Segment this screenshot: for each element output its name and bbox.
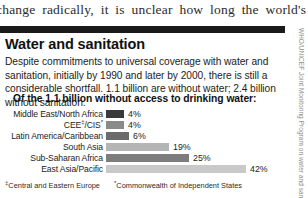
infographic-page: change radically, it is unclear how long… — [0, 0, 308, 198]
source-credit-margin: WHO/UNICEF Joint Monitoring Program on w… — [294, 0, 308, 198]
chart-row: East Asia/Pacific42% — [0, 164, 285, 175]
source-credit: WHO/UNICEF Joint Monitoring Program on w… — [297, 28, 305, 198]
chart-row-label: East Asia/Pacific — [0, 164, 103, 175]
running-body-text: change radically, it is unclear how long… — [0, 2, 286, 18]
chart-value-label: 42% — [250, 164, 268, 175]
box-title: Water and sanitation — [5, 36, 145, 52]
chart-bar — [106, 165, 246, 173]
chart-value-label: 25% — [193, 153, 211, 164]
chart-row: South Asia19% — [0, 142, 285, 153]
chart-bar — [106, 154, 189, 162]
chart-row-label: CEE‡/CIS* — [0, 120, 103, 131]
chart-row-label: Latin America/Caribbean — [0, 131, 103, 142]
chart-bar — [106, 143, 169, 151]
chart-row-label: Sub-Saharan Africa — [0, 153, 103, 164]
water-sanitation-box: Water and sanitation Despite commitments… — [0, 34, 285, 198]
chart-value-label: 6% — [133, 131, 146, 142]
chart-row: Latin America/Caribbean6% — [0, 131, 285, 142]
chart-value-label: 4% — [128, 109, 141, 120]
chart-row-label: South Asia — [0, 142, 103, 153]
chart-row: Middle East/North Africa4% — [0, 109, 285, 120]
chart-value-label: 4% — [128, 120, 141, 131]
chart-row-label: Middle East/North Africa — [0, 109, 103, 120]
chart-row: Sub-Saharan Africa25% — [0, 153, 285, 164]
footnote-text-1: Central and Eastern Europe — [8, 181, 100, 190]
chart-bar — [106, 132, 129, 140]
footnote-text-2: Commonwealth of Independent States — [116, 181, 242, 190]
chart-row: CEE‡/CIS*4% — [0, 120, 285, 131]
chart-bar — [106, 121, 124, 129]
chart-bar — [106, 110, 124, 118]
chart-subheading: Of the 1.1 billion without access to dri… — [13, 93, 256, 104]
bar-chart: Middle East/North Africa4%CEE‡/CIS*4%Lat… — [0, 109, 285, 175]
chart-value-label: 19% — [173, 142, 191, 153]
footnotes: ‡Central and Eastern Europe*Commonwealth… — [5, 181, 242, 191]
header-rule — [0, 26, 285, 33]
